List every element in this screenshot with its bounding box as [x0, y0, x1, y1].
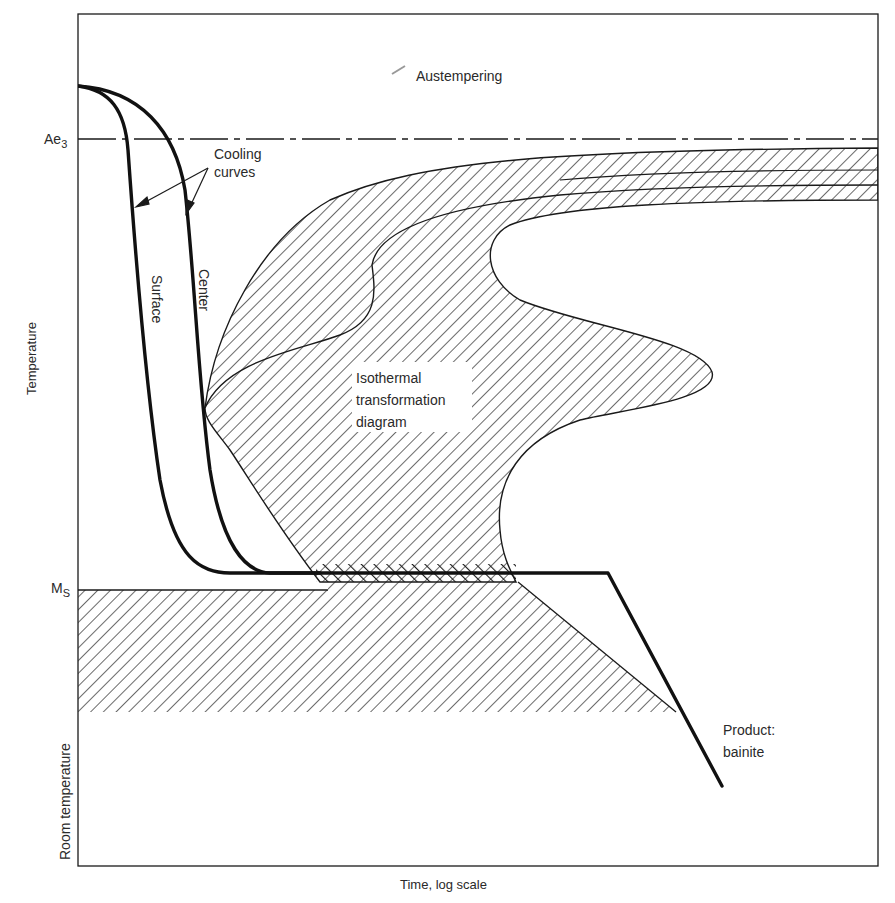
x-axis-label: Time, log scale	[400, 877, 487, 892]
cooling-curves-label-line1: Cooling	[214, 146, 261, 162]
ttt-label-line3: diagram	[356, 414, 407, 430]
ae3-label-sub: 3	[61, 138, 67, 150]
martensite-region	[78, 582, 676, 712]
ms-label-base: M	[51, 580, 63, 596]
ms-label-sub: S	[63, 587, 70, 599]
ttt-label-line1: Isothermal	[356, 370, 421, 386]
product-label-line1: Product:	[723, 722, 775, 738]
stray-mark	[392, 66, 405, 74]
y-axis-label: Temperature	[24, 322, 39, 395]
ae3-label-base: Ae	[44, 131, 61, 147]
cooling-curves-label-line2: curves	[214, 164, 255, 180]
cooling-curves-arrows	[136, 168, 208, 214]
cooling-curves-label: Cooling curves	[214, 146, 265, 180]
ttt-outer-region	[205, 148, 878, 582]
ae3-label: Ae3	[44, 131, 67, 150]
product-label: Product: bainite	[723, 722, 779, 760]
room-temperature-label: Room temperature	[57, 743, 73, 860]
ms-label: MS	[51, 580, 70, 599]
austempering-diagram: Austempering Ae3 MS Cooling curves Surfa…	[0, 0, 895, 903]
center-label: Center	[196, 269, 212, 311]
ttt-label-line2: transformation	[356, 392, 445, 408]
product-label-line2: bainite	[723, 744, 764, 760]
surface-label: Surface	[149, 275, 165, 323]
figure-title: Austempering	[416, 68, 502, 84]
